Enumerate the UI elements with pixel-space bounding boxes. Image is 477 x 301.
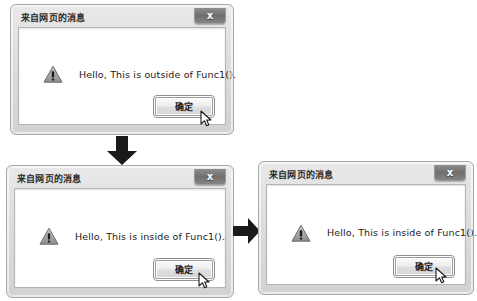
ok-button-label: 确定 (415, 260, 433, 272)
close-icon-glyph: x (207, 172, 213, 182)
dialog-3-titlebar[interactable]: 来自网页的消息 x (262, 165, 470, 183)
ok-button[interactable]: 确定 (395, 257, 453, 276)
close-icon-glyph: x (447, 168, 453, 178)
dialog-2-titlebar[interactable]: 来自网页的消息 x (10, 169, 230, 187)
dialog-3-message-row: Hello, This is inside of Func1(). (267, 224, 465, 242)
dialog-2-message: Hello, This is inside of Func1(). (75, 231, 225, 242)
dialog-1-titlebar[interactable]: 来自网页的消息 x (14, 8, 230, 26)
dialog-2-content: Hello, This is inside of Func1(). 确定 (14, 188, 226, 288)
arrow-right-icon (233, 216, 261, 246)
dialog-1-button-row: 确定 (155, 97, 213, 116)
dialog-1-message-row: Hello, This is outside of Func1(). (19, 65, 225, 83)
dialog-2-message-row: Hello, This is inside of Func1(). (15, 227, 225, 245)
arrow-down-icon (105, 136, 139, 166)
dialog-2-title: 来自网页的消息 (17, 172, 81, 184)
dialog-1-title: 来自网页的消息 (21, 11, 85, 23)
dialog-3-title: 来自网页的消息 (269, 168, 333, 180)
close-icon[interactable]: x (194, 8, 226, 24)
dialog-3-content: Hello, This is inside of Func1(). 确定 (266, 184, 466, 285)
ok-button[interactable]: 确定 (155, 260, 213, 279)
close-icon[interactable]: x (434, 165, 466, 181)
alert-dialog-1[interactable]: 来自网页的消息 x Hello, This is (10, 4, 234, 135)
dialog-1-message: Hello, This is outside of Func1(). (79, 69, 236, 80)
dialog-2-button-row: 确定 (155, 260, 213, 279)
alert-dialog-2[interactable]: 来自网页的消息 x Hello, This is (6, 165, 234, 298)
ok-button-label: 确定 (175, 100, 193, 112)
close-icon-glyph: x (207, 11, 213, 21)
warning-triangle-icon (291, 224, 311, 242)
ok-button[interactable]: 确定 (155, 97, 213, 116)
alert-dialog-3[interactable]: 来自网页的消息 x Hello, This is (258, 161, 474, 295)
dialog-3-message: Hello, This is inside of Func1(). (327, 227, 477, 238)
ok-button-label: 确定 (175, 263, 193, 275)
dialog-1-content: Hello, This is outside of Func1(). 确定 (18, 27, 226, 125)
close-icon[interactable]: x (194, 169, 226, 185)
warning-triangle-icon (39, 227, 59, 245)
dialog-3-button-row: 确定 (395, 257, 453, 276)
warning-triangle-icon (43, 65, 63, 83)
